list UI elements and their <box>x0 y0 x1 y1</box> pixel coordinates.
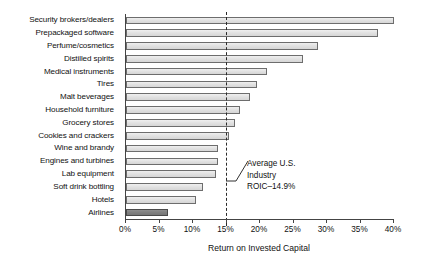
category-label: Cookies and crackers <box>0 129 118 142</box>
category-label: Hotels <box>0 193 118 206</box>
bar-row <box>126 117 394 130</box>
bar-row <box>126 142 394 155</box>
category-label: Household furniture <box>0 104 118 117</box>
category-label: Wine and brandy <box>0 142 118 155</box>
bar-row <box>126 193 394 206</box>
bar-row <box>126 91 394 104</box>
bar <box>126 55 303 63</box>
x-axis-tick <box>125 219 126 223</box>
category-label: Engines and turbines <box>0 155 118 168</box>
bar <box>126 93 250 101</box>
category-label: Malt beverages <box>0 91 118 104</box>
bar <box>126 106 240 114</box>
bar <box>126 119 235 127</box>
bar <box>126 183 203 191</box>
x-axis-tick <box>293 219 294 223</box>
category-label: Tires <box>0 78 118 91</box>
bar <box>126 209 168 217</box>
x-axis: 0%5%10%15%20%25%30%35%40% <box>125 219 393 220</box>
x-axis-tick-label: 25% <box>284 225 300 234</box>
x-axis-tick <box>159 219 160 223</box>
bar <box>126 42 318 50</box>
category-label: Prepackaged software <box>0 27 118 40</box>
bar-row <box>126 52 394 65</box>
roic-bar-chart: Security brokers/dealersPrepackaged soft… <box>0 0 421 267</box>
x-axis-tick-label: 5% <box>153 225 165 234</box>
x-axis-tick-label: 35% <box>351 225 367 234</box>
category-label: Distilled spirits <box>0 52 118 65</box>
category-label: Perfume/cosmetics <box>0 40 118 53</box>
category-label: Airlines <box>0 206 118 219</box>
bar <box>126 68 267 76</box>
bar <box>126 29 378 37</box>
bar-row <box>126 40 394 53</box>
x-axis-tick-label: 0% <box>119 225 131 234</box>
bar <box>126 132 229 140</box>
average-roic-reference-line <box>226 12 227 226</box>
bar <box>126 158 218 166</box>
bar-row <box>126 129 394 142</box>
x-axis-tick <box>393 219 394 223</box>
x-axis-tick-label: 15% <box>217 225 233 234</box>
annotation-line-3: ROIC–14.9% <box>247 181 296 193</box>
x-axis-tick <box>192 219 193 223</box>
x-axis-tick-label: 30% <box>318 225 334 234</box>
category-label: Grocery stores <box>0 117 118 130</box>
category-label: Medical instruments <box>0 65 118 78</box>
bar-row <box>126 27 394 40</box>
annotation-line-2: Industry <box>247 170 296 182</box>
bar-row <box>126 206 394 219</box>
x-axis-tick-label: 40% <box>385 225 401 234</box>
category-label: Soft drink bottling <box>0 181 118 194</box>
bar <box>126 145 218 153</box>
x-axis-tick <box>326 219 327 223</box>
bar <box>126 196 196 204</box>
bar <box>126 81 257 89</box>
average-roic-annotation: Average U.S. Industry ROIC–14.9% <box>247 158 296 193</box>
bar-row <box>126 104 394 117</box>
category-label-column: Security brokers/dealersPrepackaged soft… <box>0 14 118 219</box>
bar-row <box>126 14 394 27</box>
bar-row <box>126 65 394 78</box>
x-axis-tick <box>259 219 260 223</box>
x-axis-tick <box>360 219 361 223</box>
category-label: Lab equipment <box>0 168 118 181</box>
bar <box>126 170 216 178</box>
bar-row <box>126 78 394 91</box>
x-axis-tick-label: 20% <box>251 225 267 234</box>
x-axis-title: Return on Invested Capital <box>125 243 393 253</box>
annotation-line-1: Average U.S. <box>247 158 296 170</box>
x-axis-tick-label: 10% <box>184 225 200 234</box>
bar <box>126 17 394 25</box>
category-label: Security brokers/dealers <box>0 14 118 27</box>
x-axis-tick <box>226 219 227 223</box>
